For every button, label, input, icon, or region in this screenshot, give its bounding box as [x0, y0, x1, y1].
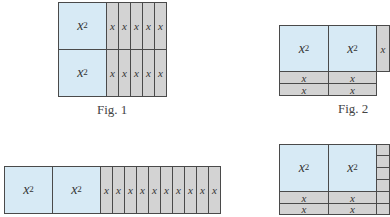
- x-strip-tile: x: [154, 2, 167, 50]
- tile-label: x: [164, 184, 169, 196]
- x-squared-tile: x2: [52, 166, 101, 214]
- tile-label: x: [212, 184, 217, 196]
- tile-label: x: [302, 203, 307, 215]
- tile-label: x: [116, 184, 121, 196]
- tile-label: x: [350, 84, 355, 96]
- tile-exponent: 2: [29, 184, 34, 194]
- tile-label: x: [134, 67, 139, 79]
- tile-label: x: [158, 67, 163, 79]
- tile-exponent: 2: [83, 20, 88, 30]
- tile-label: x: [110, 20, 115, 32]
- x-strip-tile: x: [376, 25, 390, 72]
- x-strip-tile: [376, 203, 390, 215]
- tile-label: x: [134, 20, 139, 32]
- tile-label: x: [176, 184, 181, 196]
- figure-caption: Fig. 1: [97, 102, 127, 118]
- tile-exponent: 2: [77, 184, 82, 194]
- x-squared-tile: x2: [328, 25, 377, 72]
- tile-label: x: [350, 192, 355, 204]
- x-squared-tile: x2: [279, 144, 329, 192]
- x-squared-tile: x2: [58, 2, 107, 50]
- x-strip-tile: x: [208, 166, 221, 214]
- x-squared-tile: x2: [328, 144, 377, 192]
- tile-exponent: 2: [305, 162, 310, 172]
- tile-exponent: 2: [353, 162, 358, 172]
- tile-label: x: [122, 67, 127, 79]
- x-strip-tile: x: [328, 203, 377, 215]
- tile-label: x: [302, 84, 307, 96]
- tile-exponent: 2: [353, 43, 358, 53]
- tile-label: x: [381, 43, 386, 55]
- x-strip-tile: x: [279, 203, 329, 215]
- tile-label: x: [158, 20, 163, 32]
- tile-label: x: [302, 192, 307, 204]
- tile-label: x: [146, 20, 151, 32]
- tile-label: x: [128, 184, 133, 196]
- figure-caption: Fig. 2: [338, 101, 368, 117]
- tile-label: x: [200, 184, 205, 196]
- x-strip-tile: x: [328, 83, 377, 96]
- tile-label: x: [110, 67, 115, 79]
- tile-label: x: [122, 20, 127, 32]
- x-squared-tile: x2: [4, 166, 53, 214]
- tile-label: x: [104, 184, 109, 196]
- tile-label: x: [146, 67, 151, 79]
- tile-label: x: [302, 72, 307, 84]
- tile-exponent: 2: [305, 43, 310, 53]
- tile-label: x: [140, 184, 145, 196]
- x-squared-tile: x2: [58, 49, 107, 97]
- tile-label: x: [350, 72, 355, 84]
- tile-exponent: 2: [83, 67, 88, 77]
- x-strip-tile: x: [279, 83, 329, 96]
- x-strip-tile: x: [154, 49, 167, 97]
- tile-label: x: [188, 184, 193, 196]
- x-squared-tile: x2: [279, 25, 329, 72]
- tile-label: x: [350, 203, 355, 215]
- tile-label: x: [152, 184, 157, 196]
